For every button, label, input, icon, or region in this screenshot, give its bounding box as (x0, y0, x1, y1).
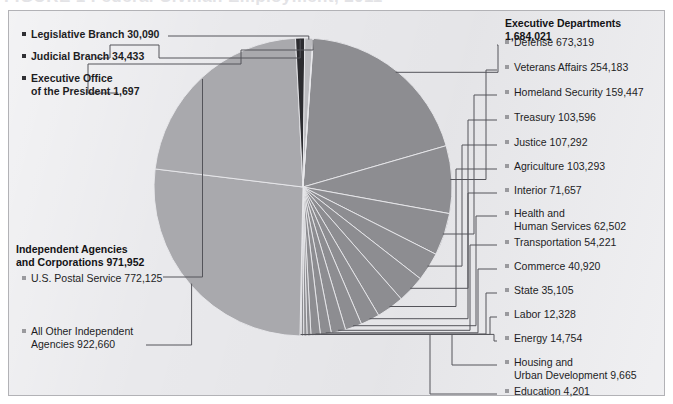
figure-title-cropped: FIGURE 1 Federal Civilian Employment, 20… (0, 0, 673, 9)
label-education: Education 4,201 (505, 385, 590, 398)
labor-bullet-icon (505, 312, 509, 316)
group-header-independent-agencies: Independent Agencies and Corporations 97… (16, 243, 144, 268)
label-veterans-affairs: Veterans Affairs 254,183 (505, 61, 628, 74)
justice-bullet-icon (505, 140, 509, 144)
executive-office-bullet-icon (22, 76, 26, 80)
label-legislative-branch: Legislative Branch 30,090 (22, 28, 159, 41)
treasury-bullet-icon (505, 115, 509, 119)
commerce-bullet-icon (505, 264, 509, 268)
label-justice: Justice 107,292 (505, 136, 588, 149)
transportation-bullet-icon (505, 240, 509, 244)
label-defense: Defense 673,319 (505, 36, 594, 49)
label-housing-and-urban-development: Housing andUrban Development 9,665 (505, 356, 637, 381)
label-labor: Labor 12,328 (505, 308, 576, 321)
us-postal-service-bullet-icon (22, 276, 26, 280)
veterans-affairs-bullet-icon (505, 65, 509, 69)
judicial-branch-bullet-icon (22, 54, 26, 58)
housing-and-urban-development-bullet-icon (505, 360, 509, 364)
label-energy: Energy 14,754 (505, 332, 582, 345)
interior-bullet-icon (505, 188, 509, 192)
health-and-human-services-bullet-icon (505, 211, 509, 215)
figure-root: FIGURE 1 Federal Civilian Employment, 20… (0, 0, 673, 404)
defense-bullet-icon (505, 40, 509, 44)
energy-bullet-icon (505, 336, 509, 340)
label-homeland-security: Homeland Security 159,447 (505, 86, 644, 99)
label-health-and-human-services: Health andHuman Services 62,502 (505, 207, 626, 232)
all-other-independent-agencies-bullet-icon (22, 329, 26, 333)
label-interior: Interior 71,657 (505, 184, 582, 197)
agriculture-bullet-icon (505, 164, 509, 168)
label-agriculture: Agriculture 103,293 (505, 160, 605, 173)
label-executive-office: Executive Officeof the President 1,697 (22, 72, 140, 97)
homeland-security-bullet-icon (505, 90, 509, 94)
label-state: State 35,105 (505, 284, 574, 297)
label-all-other-independent-agencies: All Other IndependentAgencies 922,660 (22, 325, 133, 350)
label-treasury: Treasury 103,596 (505, 111, 596, 124)
figure-title-text: FIGURE 1 Federal Civilian Employment, 20… (4, 0, 383, 7)
legislative-branch-bullet-icon (22, 32, 26, 36)
label-commerce: Commerce 40,920 (505, 260, 600, 273)
state-bullet-icon (505, 288, 509, 292)
label-judicial-branch: Judicial Branch 34,433 (22, 50, 144, 63)
label-transportation: Transportation 54,221 (505, 236, 616, 249)
education-bullet-icon (505, 389, 509, 393)
label-us-postal-service: U.S. Postal Service 772,125 (22, 272, 162, 285)
